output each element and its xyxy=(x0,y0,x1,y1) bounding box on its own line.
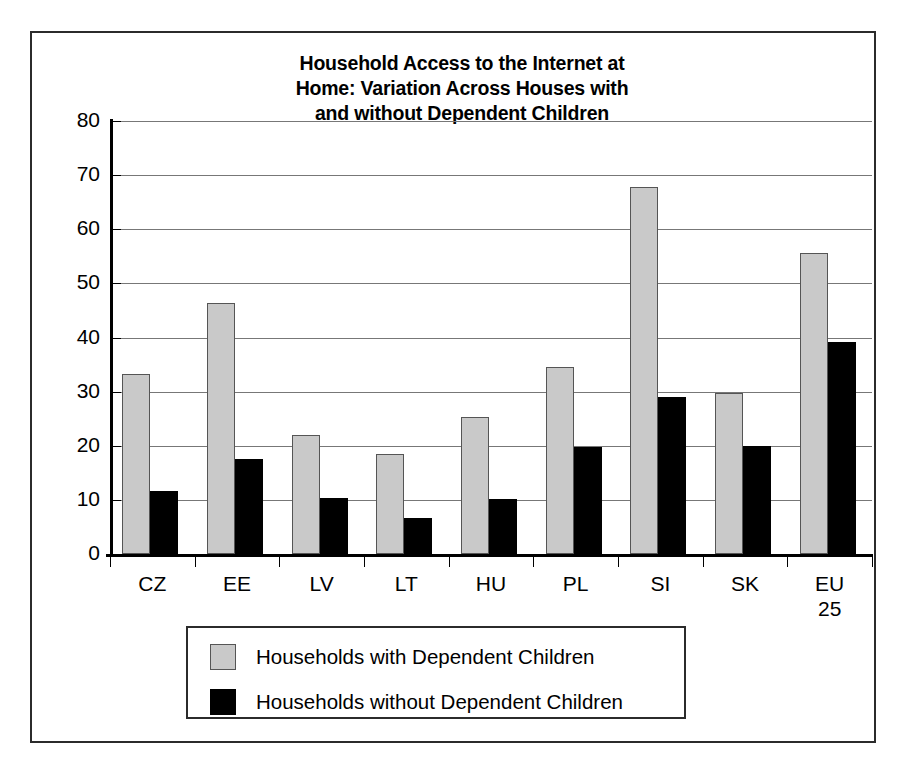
x-tick-label-HU: HU xyxy=(476,571,506,596)
y-tick-label-0: 0 xyxy=(56,541,100,565)
chart-legend: Households with Dependent ChildrenHouseh… xyxy=(186,626,686,719)
y-tick-label-40: 40 xyxy=(56,325,100,349)
x-tick-mark-6 xyxy=(618,554,619,567)
x-tick-mark-0 xyxy=(110,554,111,567)
gridline-50 xyxy=(110,283,872,284)
x-tick-label-EU25: EU 25 xyxy=(815,571,844,621)
bar-PL-series2 xyxy=(574,447,602,554)
bar-CZ-series1 xyxy=(122,374,150,554)
y-tick-mark-0 xyxy=(110,554,121,555)
bar-EE-series2 xyxy=(235,459,263,554)
y-tick-label-60: 60 xyxy=(56,216,100,240)
x-tick-mark-1 xyxy=(195,554,196,567)
bar-SI-series2 xyxy=(658,397,686,554)
bar-SI-series1 xyxy=(630,187,658,554)
x-tick-label-LT: LT xyxy=(395,571,418,596)
bar-HU-series2 xyxy=(489,499,517,554)
y-tick-mark-30 xyxy=(110,392,121,393)
y-tick-label-20: 20 xyxy=(56,433,100,457)
y-tick-mark-60 xyxy=(110,229,121,230)
legend-swatch-gray xyxy=(210,644,236,670)
gridline-70 xyxy=(110,175,872,176)
y-tick-mark-70 xyxy=(110,175,121,176)
y-axis-labels: 01020304050607080 xyxy=(44,121,100,554)
x-tick-mark-5 xyxy=(533,554,534,567)
x-tick-label-SK: SK xyxy=(731,571,759,596)
chart-title: Household Access to the Internet at Home… xyxy=(152,51,772,126)
bar-PL-series1 xyxy=(546,367,574,554)
chart-title-line-1: Household Access to the Internet at xyxy=(152,51,772,76)
bar-EE-series1 xyxy=(207,303,235,554)
legend-swatch-black xyxy=(210,689,236,715)
y-tick-label-50: 50 xyxy=(56,270,100,294)
y-tick-mark-40 xyxy=(110,338,121,339)
bar-SK-series1 xyxy=(715,393,743,554)
x-tick-label-CZ: CZ xyxy=(138,571,166,596)
legend-entry-2: Households without Dependent Children xyxy=(210,687,623,717)
x-tick-mark-4 xyxy=(449,554,450,567)
y-tick-mark-50 xyxy=(110,283,121,284)
x-tick-mark-2 xyxy=(279,554,280,567)
bar-SK-series2 xyxy=(743,446,771,554)
x-tick-mark-7 xyxy=(703,554,704,567)
y-tick-mark-10 xyxy=(110,500,121,501)
bar-CZ-series2 xyxy=(150,491,178,554)
x-tick-mark-9 xyxy=(872,554,873,567)
y-tick-mark-20 xyxy=(110,446,121,447)
bar-LT-series1 xyxy=(376,454,404,554)
x-tick-mark-8 xyxy=(787,554,788,567)
gridline-80 xyxy=(110,121,872,122)
legend-label-1: Households with Dependent Children xyxy=(256,645,594,669)
bar-HU-series1 xyxy=(461,417,489,554)
bar-LV-series1 xyxy=(292,435,320,554)
x-tick-label-PL: PL xyxy=(563,571,589,596)
bar-EU25-series1 xyxy=(800,253,828,554)
y-tick-mark-80 xyxy=(110,121,121,122)
legend-entry-1: Households with Dependent Children xyxy=(210,642,594,672)
bar-EU25-series2 xyxy=(828,342,856,554)
plot-area xyxy=(110,121,872,554)
x-axis: CZEELVLTHUPLSISKEU 25 xyxy=(110,554,872,634)
chart-title-line-2: Home: Variation Across Houses with xyxy=(152,76,772,101)
y-tick-label-30: 30 xyxy=(56,379,100,403)
gridline-60 xyxy=(110,229,872,230)
x-tick-label-EE: EE xyxy=(223,571,251,596)
bar-LT-series2 xyxy=(404,518,432,554)
x-tick-label-LV: LV xyxy=(310,571,334,596)
bar-LV-series2 xyxy=(320,498,348,554)
x-tick-label-SI: SI xyxy=(650,571,670,596)
legend-label-2: Households without Dependent Children xyxy=(256,690,623,714)
x-tick-mark-3 xyxy=(364,554,365,567)
y-tick-label-70: 70 xyxy=(56,162,100,186)
y-tick-label-80: 80 xyxy=(56,108,100,132)
y-tick-label-10: 10 xyxy=(56,487,100,511)
chart-figure: Household Access to the Internet at Home… xyxy=(30,31,876,743)
